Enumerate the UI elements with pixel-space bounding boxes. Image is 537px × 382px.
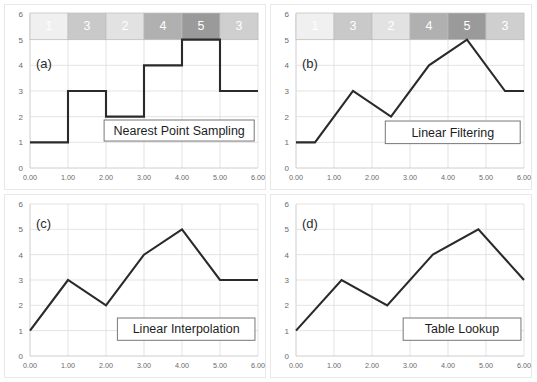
y-axis-tick-label: 0: [285, 352, 290, 361]
x-axis-tick-label: 6.00: [251, 361, 265, 370]
texel-value-label: 2: [122, 19, 129, 33]
x-axis-tick-label: 3.00: [403, 173, 417, 182]
x-axis-tick-label: 2.00: [365, 173, 379, 182]
y-axis-tick-label: 4: [19, 61, 24, 70]
x-axis-tick-label: 3.00: [403, 361, 417, 370]
texel-value-label: 3: [350, 19, 357, 33]
texel-value-label: 3: [236, 19, 243, 33]
x-axis-tick-label: 0.00: [23, 361, 37, 370]
x-axis-tick-label: 1.00: [61, 173, 75, 182]
x-axis-tick-label: 4.00: [175, 361, 189, 370]
y-axis-tick-label: 0: [19, 164, 24, 173]
y-axis-tick-label: 3: [285, 276, 290, 285]
x-axis-tick-label: 2.00: [99, 173, 113, 182]
plot-d: 0.001.002.003.004.005.006.000123456(d)Ta…: [285, 200, 531, 370]
panel-caption-label: Linear Filtering: [411, 126, 494, 140]
texel-value-label: 1: [46, 19, 53, 33]
panel-tag-label: (c): [36, 216, 51, 231]
y-axis-tick-label: 5: [19, 36, 24, 45]
x-axis-tick-label: 4.00: [441, 173, 455, 182]
y-axis-tick-label: 1: [19, 327, 24, 336]
panel-tag-label: (b): [302, 56, 318, 71]
x-axis-tick-label: 3.00: [137, 361, 151, 370]
panel-caption-label: Linear Interpolation: [133, 322, 240, 336]
x-axis-tick-label: 5.00: [479, 361, 493, 370]
panel-tag-label: (a): [36, 56, 52, 71]
x-axis-tick-label: 2.00: [365, 361, 379, 370]
x-axis-tick-label: 4.00: [175, 173, 189, 182]
texel-value-label: 2: [388, 19, 395, 33]
x-axis-tick-label: 5.00: [213, 173, 227, 182]
texel-value-label: 5: [464, 19, 471, 33]
plot-layer: 1324530.001.002.003.004.005.006.00012345…: [0, 0, 537, 382]
figure-container: 1324530.001.002.003.004.005.006.00012345…: [0, 0, 537, 382]
y-axis-tick-label: 2: [19, 113, 24, 122]
panel-caption-label: Nearest Point Sampling: [113, 124, 244, 138]
y-axis-tick-label: 5: [285, 225, 290, 234]
x-axis-tick-label: 6.00: [251, 173, 265, 182]
texel-value-label: 3: [84, 19, 91, 33]
y-axis-tick-label: 6: [285, 10, 290, 19]
x-axis-tick-label: 5.00: [213, 361, 227, 370]
x-axis-tick-label: 6.00: [517, 173, 531, 182]
x-axis-tick-label: 0.00: [289, 361, 303, 370]
y-axis-tick-label: 2: [285, 113, 290, 122]
panel-caption-label: Table Lookup: [425, 322, 499, 336]
x-axis-tick-label: 2.00: [99, 361, 113, 370]
x-axis-tick-label: 5.00: [479, 173, 493, 182]
texel-value-label: 4: [160, 19, 167, 33]
x-axis-tick-label: 0.00: [23, 173, 37, 182]
y-axis-tick-label: 4: [19, 251, 24, 260]
y-axis-tick-label: 3: [19, 87, 24, 96]
y-axis-tick-label: 5: [19, 225, 24, 234]
x-axis-tick-label: 4.00: [441, 361, 455, 370]
y-axis-tick-label: 6: [19, 200, 24, 209]
x-axis-tick-label: 1.00: [327, 173, 341, 182]
y-axis-tick-label: 5: [285, 36, 290, 45]
y-axis-tick-label: 2: [19, 301, 24, 310]
y-axis-tick-label: 1: [19, 138, 24, 147]
y-axis-tick-label: 3: [19, 276, 24, 285]
y-axis-tick-label: 2: [285, 301, 290, 310]
texel-value-label: 3: [502, 19, 509, 33]
x-axis-tick-label: 1.00: [327, 361, 341, 370]
y-axis-tick-label: 4: [285, 251, 290, 260]
y-axis-tick-label: 4: [285, 61, 290, 70]
y-axis-tick-label: 1: [285, 138, 290, 147]
y-axis-tick-label: 3: [285, 87, 290, 96]
x-axis-tick-label: 0.00: [289, 173, 303, 182]
y-axis-tick-label: 0: [285, 164, 290, 173]
plot-a: 1324530.001.002.003.004.005.006.00012345…: [19, 10, 265, 182]
panel-tag-label: (d): [302, 216, 318, 231]
texel-value-label: 4: [426, 19, 433, 33]
plot-c: 0.001.002.003.004.005.006.000123456(c)Li…: [19, 200, 265, 370]
plot-b: 1324530.001.002.003.004.005.006.00012345…: [285, 10, 531, 182]
texel-value-label: 1: [312, 19, 319, 33]
x-axis-tick-label: 1.00: [61, 361, 75, 370]
texel-value-label: 5: [198, 19, 205, 33]
y-axis-tick-label: 6: [19, 10, 24, 19]
y-axis-tick-label: 1: [285, 327, 290, 336]
y-axis-tick-label: 6: [285, 200, 290, 209]
x-axis-tick-label: 6.00: [517, 361, 531, 370]
x-axis-tick-label: 3.00: [137, 173, 151, 182]
y-axis-tick-label: 0: [19, 352, 24, 361]
